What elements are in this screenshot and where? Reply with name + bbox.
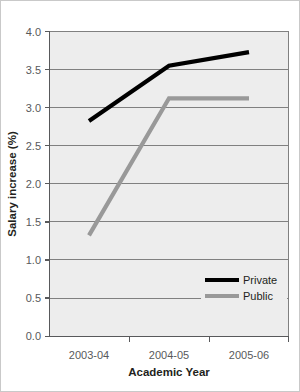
chart-legend: Private Public	[201, 269, 287, 305]
y-tick-label-3-0: 3.0	[26, 102, 41, 114]
x-tick-label-2003-04: 2003-04	[69, 349, 109, 361]
y-tick-label-2-0: 2.0	[26, 178, 41, 190]
x-tick-label-2005-06: 2005-06	[229, 349, 269, 361]
x-tick-label-2004-05: 2004-05	[149, 349, 189, 361]
chart-figure: 4.0 3.5 3.0 2.5 2.0 1.5 1.0 0.5 0.0 2003…	[0, 0, 300, 392]
y-tick-label-0-0: 0.0	[26, 330, 41, 342]
y-tick-label-0-5: 0.5	[26, 292, 41, 304]
y-axis-ticks	[45, 32, 49, 337]
legend-label-private: Private	[243, 274, 277, 286]
y-tick-label-2-5: 2.5	[26, 140, 41, 152]
y-axis-title: Salary increase (%)	[6, 131, 18, 237]
x-axis-tick-labels: 2003-04 2004-05 2005-06	[69, 349, 269, 361]
y-tick-label-1-0: 1.0	[26, 254, 41, 266]
legend-label-public: Public	[243, 290, 273, 302]
y-axis-tick-labels: 4.0 3.5 3.0 2.5 2.0 1.5 1.0 0.5 0.0	[26, 26, 41, 343]
y-tick-label-1-5: 1.5	[26, 216, 41, 228]
y-tick-label-3-5: 3.5	[26, 64, 41, 76]
y-tick-label-4-0: 4.0	[26, 26, 41, 38]
x-axis-title: Academic Year	[128, 366, 210, 378]
salary-increase-line-chart: 4.0 3.5 3.0 2.5 2.0 1.5 1.0 0.5 0.0 2003…	[1, 1, 300, 392]
